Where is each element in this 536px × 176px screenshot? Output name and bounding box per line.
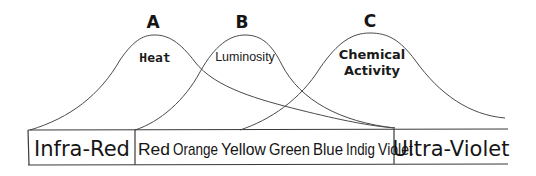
band-blue: Blue	[313, 140, 343, 159]
band-ultraviolet: Ultra-Violet	[393, 137, 510, 161]
curve-b-letter: B	[236, 12, 249, 32]
band-infrared: Infra-Red	[34, 137, 130, 161]
curve-c-label-line1: Chemical	[339, 47, 406, 62]
band-orange: Orange	[173, 140, 218, 159]
spectrum-bar-top-edge	[28, 129, 508, 130]
spectrum-bar-left-edge	[28, 130, 29, 165]
curve-c-letter: C	[364, 11, 376, 31]
curve-c-label-line2: Activity	[344, 63, 401, 78]
band-indigo: Indig	[346, 140, 375, 159]
visible-spectrum-labels: Red Orange Yellow Green Blue Indig Viole…	[138, 140, 413, 159]
curve-a-label: Heat	[139, 50, 170, 65]
band-green: Green	[269, 140, 310, 159]
curve-a-letter: A	[146, 12, 160, 32]
spectrum-diagram: A B C Heat Luminosity Chemical Activity …	[0, 0, 536, 176]
spectrum-bar-bottom-edge	[28, 164, 508, 165]
curve-b-label: Luminosity	[215, 50, 275, 64]
band-red: Red	[138, 140, 170, 159]
band-yellow: Yellow	[221, 140, 267, 159]
